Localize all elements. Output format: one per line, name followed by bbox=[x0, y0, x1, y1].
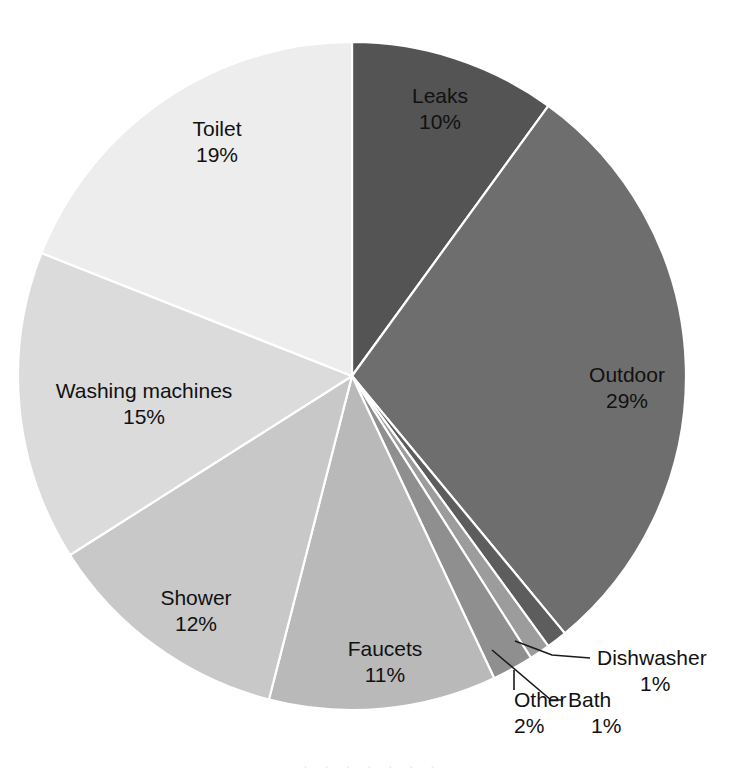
slice-label-shower: Shower bbox=[160, 586, 231, 609]
slice-percent-washing-machines: 15% bbox=[123, 405, 165, 428]
slice-label-faucets: Faucets bbox=[348, 637, 423, 660]
slice-percent-bath: 1% bbox=[591, 714, 621, 737]
pie-chart-svg: Leaks10%Outdoor29%Dishwasher1%Bath1%Othe… bbox=[0, 0, 744, 777]
slice-percent-leaks: 10% bbox=[419, 110, 461, 133]
slice-label-leaks: Leaks bbox=[412, 84, 468, 107]
slice-label-washing-machines: Washing machines bbox=[56, 379, 233, 402]
slice-percent-dishwasher: 1% bbox=[640, 672, 670, 695]
slice-label-toilet: Toilet bbox=[192, 117, 241, 140]
scan-artifact-text: · · · · · · · bbox=[0, 757, 744, 775]
slice-label-dishwasher: Dishwasher bbox=[597, 646, 707, 669]
slice-percent-faucets: 11% bbox=[365, 663, 405, 686]
slice-label-bath: Bath bbox=[568, 688, 611, 711]
slice-percent-toilet: 19% bbox=[196, 143, 238, 166]
slice-percent-outdoor: 29% bbox=[606, 389, 648, 412]
slice-label-other: Other bbox=[514, 688, 567, 711]
pie-slices-group bbox=[18, 42, 686, 710]
slice-percent-other: 2% bbox=[514, 714, 544, 737]
pie-chart-figure: Leaks10%Outdoor29%Dishwasher1%Bath1%Othe… bbox=[0, 0, 744, 777]
slice-percent-shower: 12% bbox=[175, 612, 217, 635]
slice-label-outdoor: Outdoor bbox=[589, 363, 665, 386]
